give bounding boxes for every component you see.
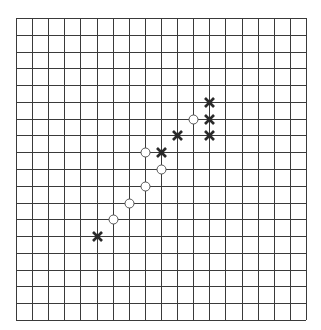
o-mark-icon — [125, 199, 134, 208]
o-mark-icon — [109, 215, 118, 224]
o-mark-icon — [141, 182, 150, 191]
o-mark-icon — [141, 148, 150, 157]
o-mark-icon — [157, 165, 166, 174]
o-mark-icon — [189, 115, 198, 124]
game-board[interactable] — [0, 0, 321, 330]
